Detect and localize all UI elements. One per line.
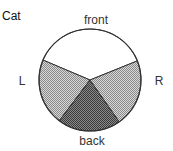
- chart-title: Cat: [2, 9, 21, 23]
- pie-chart: Cat frontLbackR: [0, 0, 173, 151]
- slice-label-back: back: [79, 134, 105, 148]
- slice-label-R: R: [155, 74, 164, 88]
- slice-label-front: front: [84, 13, 109, 27]
- slice-label-L: L: [19, 74, 26, 88]
